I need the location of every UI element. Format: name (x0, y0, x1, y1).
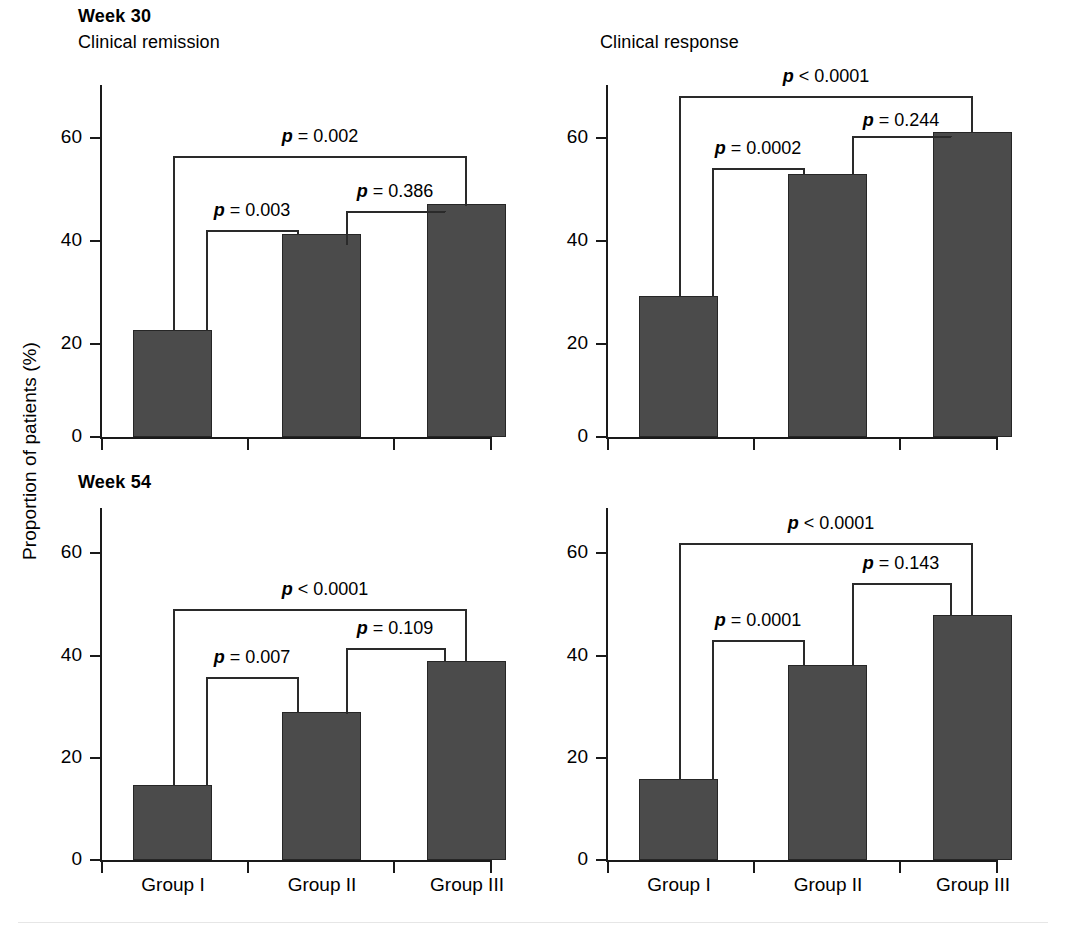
pvalue-i-iii-text: < 0.0001 (799, 513, 875, 533)
y-tick-20 (90, 343, 100, 345)
y-tick-20 (596, 757, 606, 759)
bracket-i-ii-left (206, 677, 208, 786)
bracket-i-iii-right (971, 543, 973, 616)
bracket-i-ii-top (206, 677, 298, 679)
pvalue-ii-iii-text: = 0.109 (368, 618, 434, 638)
y-tick-20 (596, 343, 606, 345)
x-tick-label-group-iii: Group III (913, 874, 1033, 896)
pvalue-i-iii: p < 0.0001 (250, 579, 400, 600)
bar-group-ii (788, 174, 867, 437)
x-tick-1 (247, 862, 249, 873)
y-axis-line (100, 508, 102, 862)
x-axis-line (100, 860, 492, 862)
x-tick-2 (899, 439, 901, 450)
bracket-i-iii-top (679, 96, 972, 98)
y-tick-0 (90, 436, 100, 438)
bracket-i-ii-top (712, 168, 804, 170)
x-tick-label-group-ii: Group II (262, 874, 382, 896)
bracket-ii-iii-right (950, 583, 952, 616)
bar-group-iii (427, 661, 506, 860)
x-tick-label-group-i: Group I (619, 874, 739, 896)
bracket-ii-iii-left (346, 211, 348, 245)
pvalue-i-iii-text: < 0.0001 (293, 579, 369, 599)
bracket-ii-iii-left (852, 583, 854, 666)
pvalue-i-ii-text: = 0.0002 (726, 138, 802, 158)
bracket-ii-iii-right (444, 211, 446, 212)
x-tick-end (996, 862, 998, 873)
pvalue-ii-iii-text: = 0.143 (874, 553, 940, 573)
bracket-i-iii-right (971, 96, 973, 133)
y-tick-40 (90, 655, 100, 657)
y-tick-label-40: 40 (42, 229, 82, 251)
bar-group-ii (282, 712, 361, 860)
y-tick-label-20: 20 (548, 332, 588, 354)
y-tick-label-0: 0 (42, 425, 82, 447)
x-tick-2 (899, 862, 901, 873)
y-tick-60 (90, 552, 100, 554)
bar-group-i (639, 296, 718, 437)
bracket-i-iii-top (173, 609, 466, 611)
pvalue-ii-iii: p = 0.244 (831, 110, 971, 131)
x-tick-label-group-i: Group I (113, 874, 233, 896)
pvalue-i-ii-text: = 0.007 (225, 647, 291, 667)
pvalue-i-ii-text: = 0.0001 (726, 610, 802, 630)
pvalue-i-iii-text: = 0.002 (293, 126, 359, 146)
x-tick-1 (247, 439, 249, 450)
pvalue-i-ii: p = 0.0002 (683, 138, 833, 159)
pvalue-i-iii: p < 0.0001 (756, 66, 896, 87)
caption-rule (18, 922, 1048, 923)
bar-group-ii (282, 234, 361, 437)
y-axis-label-container: Proportion of patients (%) (0, 0, 44, 927)
bracket-ii-iii-right (444, 648, 446, 662)
bracket-i-iii-right (465, 156, 467, 206)
x-tick-start (607, 862, 609, 873)
pvalue-ii-iii: p = 0.143 (831, 553, 971, 574)
bracket-i-ii-left (712, 640, 714, 780)
x-tick-2 (393, 439, 395, 450)
y-tick-40 (596, 240, 606, 242)
bracket-i-ii-right (297, 230, 299, 235)
column-title-clinical-remission: Clinical remission (78, 32, 220, 53)
pvalue-i-ii: p = 0.007 (182, 647, 322, 668)
bracket-i-iii-left (173, 609, 175, 786)
bracket-i-ii-right (803, 640, 805, 666)
pvalue-ii-iii: p = 0.109 (325, 618, 465, 639)
bracket-i-iii-left (679, 543, 681, 780)
x-tick-end (996, 439, 998, 450)
bracket-i-iii-top (679, 543, 972, 545)
y-tick-label-40: 40 (548, 229, 588, 251)
y-axis-line (606, 508, 608, 862)
y-tick-label-20: 20 (42, 746, 82, 768)
bar-group-iii (933, 132, 1012, 437)
pvalue-i-ii-text: = 0.003 (225, 200, 291, 220)
pvalue-ii-iii-text: = 0.244 (874, 110, 940, 130)
x-axis-line (100, 437, 492, 439)
pvalue-ii-iii: p = 0.386 (325, 181, 465, 202)
bar-group-i (133, 330, 212, 437)
pvalue-i-ii: p = 0.003 (182, 200, 322, 221)
y-tick-label-60: 60 (548, 126, 588, 148)
bracket-i-ii-top (712, 640, 804, 642)
x-tick-1 (753, 862, 755, 873)
bracket-i-iii-top (173, 156, 466, 158)
bracket-i-iii-left (173, 156, 175, 331)
y-tick-60 (596, 552, 606, 554)
x-tick-label-group-iii: Group III (407, 874, 527, 896)
bar-group-ii (788, 665, 867, 860)
bracket-ii-iii-right (950, 136, 952, 137)
bracket-i-ii-left (712, 168, 714, 297)
pvalue-ii-iii-text: = 0.386 (368, 181, 434, 201)
row-title-week30: Week 30 (78, 6, 151, 27)
bracket-i-ii-right (297, 677, 299, 713)
y-tick-label-0: 0 (548, 848, 588, 870)
figure-root: Proportion of patients (%) Week 30 Clini… (0, 0, 1069, 927)
bracket-i-ii-left (206, 230, 208, 331)
y-tick-label-60: 60 (42, 126, 82, 148)
y-tick-label-20: 20 (548, 746, 588, 768)
pvalue-i-iii: p = 0.002 (250, 126, 390, 147)
column-title-clinical-response: Clinical response (600, 32, 739, 53)
y-tick-60 (90, 137, 100, 139)
bracket-i-ii-top (206, 230, 298, 232)
bar-group-iii (933, 615, 1012, 860)
y-tick-0 (596, 859, 606, 861)
